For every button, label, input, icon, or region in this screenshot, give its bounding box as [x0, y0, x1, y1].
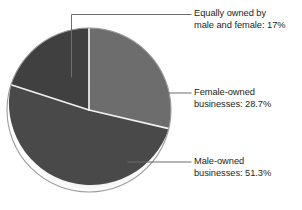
- pie-label-female-owned: Female-owned businesses: 28.7%: [194, 87, 271, 110]
- pie-label-equally-owned-line2: male and female: 17%: [194, 20, 286, 32]
- pie-label-male-owned-line2: businesses: 51.3%: [194, 168, 271, 180]
- pie-label-equally-owned: Equally owned by male and female: 17%: [194, 8, 286, 31]
- pie-label-female-owned-line2: businesses: 28.7%: [194, 99, 271, 111]
- pie-label-equally-owned-line1: Equally owned by: [194, 8, 286, 20]
- pie-chart-figure: Equally owned by male and female: 17% Fe…: [0, 0, 302, 210]
- pie-label-male-owned: Male-owned businesses: 51.3%: [194, 156, 271, 179]
- pie-label-female-owned-line1: Female-owned: [194, 87, 271, 99]
- pie-label-male-owned-line1: Male-owned: [194, 156, 271, 168]
